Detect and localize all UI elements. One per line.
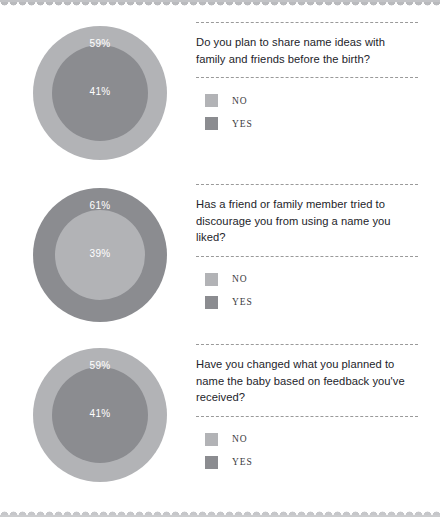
pie-label-inner-1: 41% [70,86,130,97]
pie-label-outer-1: 59% [70,38,130,49]
legend-item-yes-2[interactable]: YES [196,291,418,314]
legend-label-no-2: NO [232,274,248,284]
legend-swatch-yes-icon-1 [205,117,218,130]
pie-label-inner-2: 39% [70,248,130,259]
pie-chart-1: 59% 41% [33,26,167,160]
legend-swatch-no-icon-1 [205,94,218,107]
legend-3: NO YES [196,417,418,474]
scalloped-bottom-edge-decoration [0,508,440,517]
question-block-1: Do you plan to share name ideas with fam… [196,22,418,135]
pie-chart-3: 59% 41% [33,348,167,482]
legend-item-yes-3[interactable]: YES [196,451,418,474]
legend-item-no-3[interactable]: NO [196,428,418,451]
question-block-2: Has a friend or family member tried to d… [196,184,418,314]
legend-swatch-yes-icon-2 [205,296,218,309]
legend-item-no-1[interactable]: NO [196,89,418,112]
pie-chart-2: 61% 39% [33,188,167,322]
legend-label-yes-1: YES [232,119,253,129]
legend-1: NO YES [196,78,418,135]
legend-item-yes-1[interactable]: YES [196,112,418,135]
legend-swatch-no-icon-2 [205,273,218,286]
question-text-2: Has a friend or family member tried to d… [196,185,414,256]
pie-label-outer-3: 59% [70,360,130,371]
survey-row-2: 61% 39% Has a friend or family member tr… [0,184,440,339]
infographic-page: 59% 41% Do you plan to share name ideas … [0,0,440,517]
legend-label-no-3: NO [232,434,248,444]
legend-swatch-no-icon-3 [205,433,218,446]
pie-label-inner-3: 41% [70,408,130,419]
survey-row-1: 59% 41% Do you plan to share name ideas … [0,22,440,177]
legend-label-yes-2: YES [232,297,253,307]
survey-row-3: 59% 41% Have you changed what you planne… [0,344,440,499]
question-block-3: Have you changed what you planned to nam… [196,344,418,474]
legend-label-no-1: NO [232,96,248,106]
legend-swatch-yes-icon-3 [205,456,218,469]
legend-label-yes-3: YES [232,457,253,467]
pie-label-outer-2: 61% [70,200,130,211]
question-text-3: Have you changed what you planned to nam… [196,345,414,416]
legend-item-no-2[interactable]: NO [196,268,418,291]
question-text-1: Do you plan to share name ideas with fam… [196,23,414,77]
legend-2: NO YES [196,257,418,314]
scalloped-top-edge-decoration [0,0,440,9]
